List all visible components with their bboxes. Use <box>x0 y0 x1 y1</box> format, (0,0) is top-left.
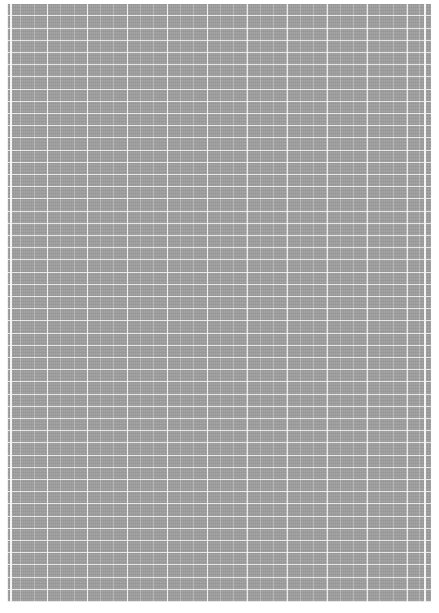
right-margin-line <box>424 4 426 602</box>
left-margin-line <box>10 4 12 602</box>
graph-paper-sheet <box>7 4 431 602</box>
